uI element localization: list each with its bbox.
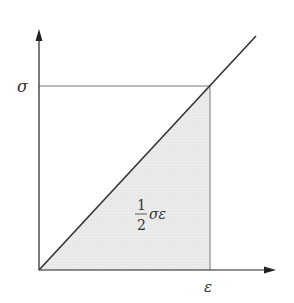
x-axis-arrow-icon xyxy=(264,267,276,274)
epsilon-label: ε xyxy=(204,278,212,296)
fraction-denominator: 2 xyxy=(137,217,146,233)
y-axis-arrow-icon xyxy=(36,29,43,41)
area-expression: σε xyxy=(149,206,166,222)
sigma-label: σ xyxy=(17,77,29,96)
fraction-numerator: 1 xyxy=(137,197,146,213)
stress-strain-diagram: σ ε 1 2 σε xyxy=(0,0,294,303)
